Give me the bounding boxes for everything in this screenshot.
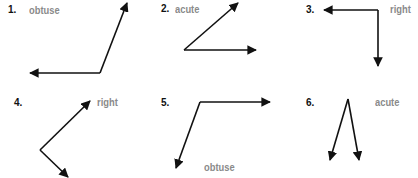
angle-4-ray-1	[40, 101, 90, 150]
problem-1-answer: obtuse	[29, 4, 60, 16]
problem-5-number: 5.	[161, 97, 169, 108]
problem-6-answer: acute	[375, 96, 399, 108]
problem-5-answer: obtuse	[204, 161, 235, 173]
problem-4-number: 4.	[14, 97, 22, 108]
angle-5-ray-2	[176, 102, 200, 168]
problem-3-answer: right	[390, 3, 411, 15]
problem-1-number: 1.	[8, 4, 16, 15]
problem-2-answer: acute	[175, 3, 199, 15]
angle-6-ray-1	[330, 99, 348, 160]
problem-2-number: 2.	[161, 3, 169, 14]
angle-4-ray-2	[40, 150, 68, 177]
problem-3-number: 3.	[306, 4, 314, 15]
problem-6-number: 6.	[306, 97, 314, 108]
angles-canvas	[0, 0, 418, 178]
problem-4-answer: right	[97, 96, 118, 108]
angle-1-ray-2	[100, 3, 127, 73]
angle-6-ray-2	[348, 99, 359, 160]
